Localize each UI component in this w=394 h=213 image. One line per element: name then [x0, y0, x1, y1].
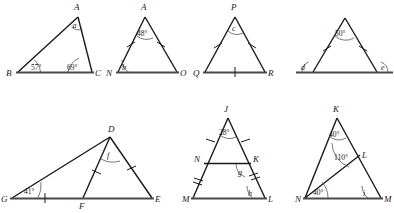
- vertex-label-a: A: [140, 2, 147, 12]
- vertex-label-c: C: [95, 68, 102, 78]
- figure-triangle-gde: G D E F 41° f: [1, 124, 161, 211]
- angle-label-j: 28°: [219, 128, 230, 137]
- angle-label-c: 69°: [67, 63, 78, 72]
- angle-label-c: c: [232, 24, 236, 33]
- side-jl: [228, 118, 265, 198]
- vertex-label-b: B: [6, 68, 12, 78]
- angle-label-a: a: [73, 21, 77, 30]
- figure-triangle-pqr: P Q R c: [193, 2, 274, 78]
- vertex-label-k: K: [252, 154, 260, 164]
- angle-label-h: h: [248, 189, 252, 198]
- angle-label-k: 40°: [329, 130, 340, 139]
- vertex-label-l: L: [267, 194, 273, 204]
- angle-label-a: 48°: [137, 29, 148, 38]
- angle-label-g: g: [238, 168, 242, 177]
- angle-label-f: f: [107, 151, 111, 160]
- vertex-label-o: O: [180, 68, 187, 78]
- angle-label-n: 40°: [313, 188, 324, 197]
- side-ac: [78, 17, 92, 72]
- angle-label-g: 41°: [24, 187, 35, 196]
- figure-triangle-exterior-angles: 50° d e: [296, 18, 393, 73]
- angle-label-i: i: [363, 189, 365, 198]
- tick-left-leg: [323, 46, 331, 51]
- figure-triangle-knm: K N M L 40° 110° 40° i: [294, 104, 392, 204]
- vertex-label-l: L: [361, 150, 367, 160]
- figure-triangle-abc: A B C a 57° 69°: [6, 2, 102, 78]
- vertex-label-k: K: [332, 104, 340, 114]
- right-leg: [345, 18, 377, 72]
- figure-triangle-jml: J M L N K 28° g h: [181, 104, 273, 204]
- vertex-label-m: M: [383, 194, 392, 204]
- vertex-label-g: G: [1, 194, 8, 204]
- tick-jk: [241, 139, 250, 142]
- vertex-label-m: M: [181, 194, 190, 204]
- angle-label-l: 110°: [334, 153, 348, 162]
- angle-label-b: 57°: [31, 63, 42, 72]
- tick-right-leg: [359, 46, 367, 51]
- vertex-label-q: Q: [193, 68, 200, 78]
- angle-label-apex: 50°: [335, 29, 346, 38]
- figure-triangle-ano: A N O 48° b: [105, 2, 187, 78]
- side-de: [110, 137, 152, 198]
- vertex-label-j: J: [224, 104, 229, 114]
- angle-arc-f: [101, 159, 120, 162]
- vertex-label-n: N: [193, 154, 201, 164]
- geometry-figure-sheet: A B C a 57° 69° A N O 48° b P Q R c: [0, 0, 394, 213]
- vertex-label-a: A: [73, 2, 80, 12]
- vertex-label-n: N: [105, 68, 113, 78]
- left-leg: [313, 18, 345, 72]
- tick-jn: [206, 139, 215, 142]
- tick-ao: [157, 42, 165, 47]
- angle-arc-g: [38, 182, 41, 198]
- vertex-label-p: P: [230, 2, 237, 12]
- vertex-label-e: E: [154, 194, 161, 204]
- vertex-label-d: D: [107, 124, 115, 134]
- vertex-label-n: N: [294, 194, 302, 204]
- tick-nm-2: [193, 182, 202, 185]
- angle-label-b: b: [122, 63, 126, 72]
- angle-label-e: e: [381, 63, 385, 72]
- vertex-label-f: F: [78, 201, 85, 211]
- geometry-canvas: A B C a 57° 69° A N O 48° b P Q R c: [0, 0, 394, 213]
- vertex-label-r: R: [267, 68, 274, 78]
